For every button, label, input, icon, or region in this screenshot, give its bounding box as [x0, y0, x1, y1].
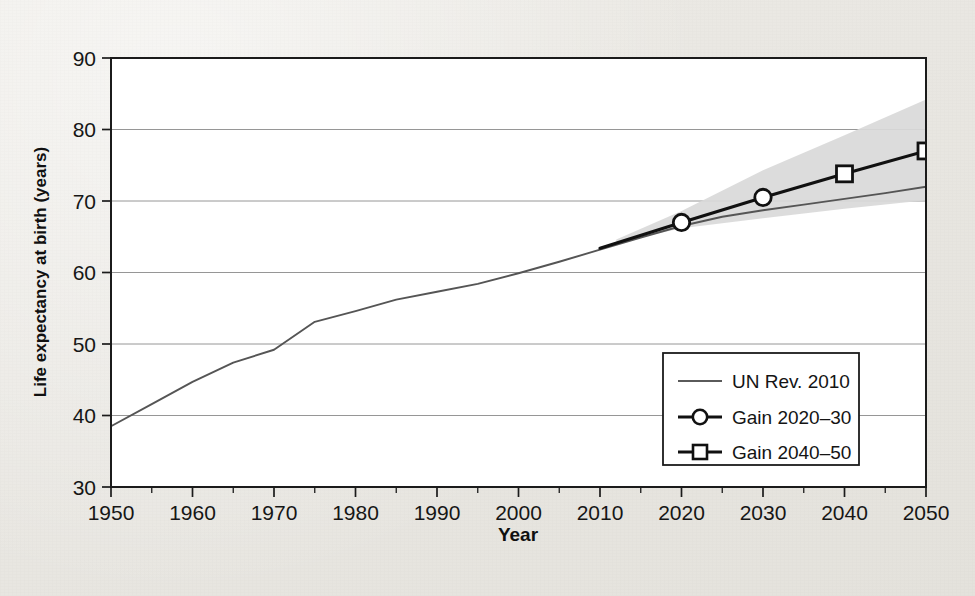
- x-axis-tick-labels: 1950196019701980199020002010202020302040…: [88, 501, 950, 524]
- x-tick-label: 1950: [88, 501, 135, 524]
- legend-label-un-rev-2010: UN Rev. 2010: [732, 371, 850, 392]
- x-tick-label: 2000: [495, 501, 542, 524]
- y-tick-label: 80: [73, 118, 96, 141]
- data-point-square-marker: [837, 166, 853, 182]
- legend-swatch-circle-marker-icon: [693, 410, 707, 424]
- y-tick-label: 70: [73, 190, 96, 213]
- data-point-circle-marker: [755, 189, 771, 205]
- life-expectancy-chart: 1950196019701980199020002010202020302040…: [0, 0, 975, 596]
- y-tick-label: 60: [73, 261, 96, 284]
- y-tick-label: 40: [73, 404, 96, 427]
- y-tick-label: 90: [73, 47, 96, 70]
- y-axis-title: Life expectancy at birth (years): [31, 147, 50, 397]
- x-tick-label: 2030: [740, 501, 787, 524]
- x-tick-label: 1990: [414, 501, 461, 524]
- y-tick-label: 50: [73, 333, 96, 356]
- x-tick-label: 1980: [332, 501, 379, 524]
- legend-entry-gain-2040-50[interactable]: Gain 2040–50: [678, 442, 851, 463]
- legend-label-gain-2040-50: Gain 2040–50: [732, 442, 851, 463]
- x-tick-label: 2020: [658, 501, 705, 524]
- x-tick-label: 2040: [821, 501, 868, 524]
- y-tick-label: 30: [73, 476, 96, 499]
- legend-swatch-square-marker-icon: [693, 445, 707, 459]
- x-tick-label: 1970: [251, 501, 298, 524]
- data-point-circle-marker: [673, 214, 689, 230]
- x-axis-ticks: [111, 487, 926, 497]
- y-axis-tick-labels: 30405060708090: [73, 47, 96, 499]
- x-tick-label: 1960: [169, 501, 216, 524]
- x-tick-label: 2010: [577, 501, 624, 524]
- legend: UN Rev. 2010 Gain 2020–30 Gain 2040–50: [663, 353, 859, 465]
- y-axis-ticks: [102, 58, 111, 487]
- legend-label-gain-2020-30: Gain 2020–30: [732, 407, 851, 428]
- figure-page: 1950196019701980199020002010202020302040…: [0, 0, 975, 596]
- x-tick-label: 2050: [903, 501, 950, 524]
- x-axis-title: Year: [498, 524, 539, 545]
